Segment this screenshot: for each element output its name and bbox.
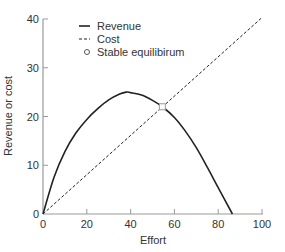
x-tick-label: 40: [124, 218, 136, 230]
x-tick-label: 0: [40, 218, 46, 230]
legend-label: Revenue: [97, 20, 141, 32]
x-tick-label: 60: [168, 218, 180, 230]
legend-item: Stable equilibirum: [85, 46, 185, 58]
revenue-line: [43, 92, 232, 214]
x-tick-label: 80: [212, 218, 224, 230]
y-tick-label: 30: [27, 62, 39, 74]
legend: RevenueCostStable equilibirum: [79, 20, 184, 58]
y-axis-label: Revenue or cost: [2, 76, 14, 156]
x-axis-label: Effort: [140, 234, 166, 246]
legend-item: Revenue: [79, 20, 141, 32]
x-tick-label: 20: [81, 218, 93, 230]
y-tick-label: 20: [27, 111, 39, 123]
x-tick-label: 100: [253, 218, 271, 230]
y-tick-label: 10: [27, 159, 39, 171]
stable-equilibrium-marker: [159, 104, 165, 110]
legend-open-circle-icon: [85, 50, 90, 55]
legend-item: Cost: [79, 33, 120, 45]
y-tick-label: 0: [33, 208, 39, 220]
chart: 020406080100010203040 RevenueCostStable …: [0, 0, 285, 252]
legend-label: Cost: [97, 33, 120, 45]
legend-label: Stable equilibirum: [97, 46, 184, 58]
y-tick-label: 40: [27, 13, 39, 25]
